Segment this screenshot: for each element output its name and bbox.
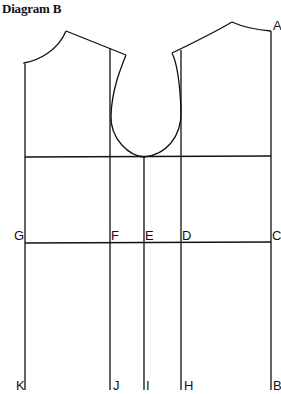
label-F: F	[111, 228, 119, 243]
right-armhole-curve	[144, 53, 181, 157]
label-E: E	[145, 228, 154, 243]
label-G: G	[14, 228, 24, 243]
left-shoulder-line	[66, 31, 126, 55]
pattern-diagram: A G F E D C K J I H B	[0, 0, 281, 394]
label-C: C	[272, 228, 281, 243]
right-neckline-curve	[232, 22, 271, 31]
label-D: D	[182, 228, 191, 243]
left-neckline-curve	[24, 31, 66, 64]
label-I: I	[146, 378, 150, 393]
left-armhole-curve	[111, 55, 144, 157]
label-K: K	[16, 378, 25, 393]
label-B: B	[273, 378, 281, 393]
label-A: A	[273, 18, 281, 33]
chest-line	[25, 156, 271, 157]
label-H: H	[184, 378, 193, 393]
right-shoulder-line	[172, 22, 232, 53]
label-J: J	[113, 378, 120, 393]
